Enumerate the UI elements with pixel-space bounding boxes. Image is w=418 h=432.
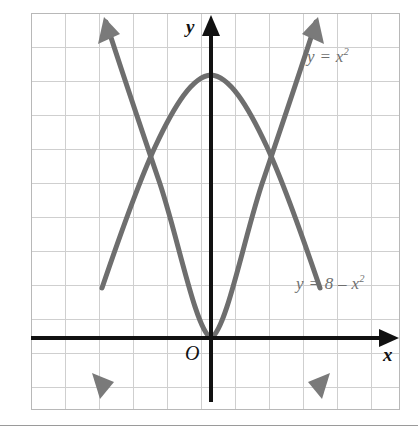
grid-lines [31,13,400,410]
coordinate-plane-svg [0,0,418,432]
page-divider-rule [0,425,418,426]
curve-label-2-exponent: 2 [359,273,365,284]
origin-label: O [185,343,199,363]
graph-figure: y = x2 y = 8 – x2 y x O [0,0,418,432]
y-axis-label: y [186,17,194,36]
x-axis-label: x [383,345,393,364]
curve-label-y-equals-x-squared: y = x2 [307,48,349,65]
curve-label-1-text: y = x [307,47,344,66]
curve-label-2-text: y = 8 – x [296,274,359,293]
curve-label-1-exponent: 2 [344,46,350,57]
curve-label-y-equals-8-minus-x-squared: y = 8 – x2 [296,275,365,292]
